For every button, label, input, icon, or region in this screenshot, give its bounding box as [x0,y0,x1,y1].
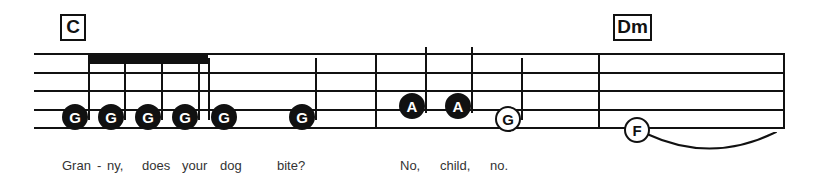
lyric-syllable: your [182,159,207,172]
stem-g-6 [315,58,317,120]
note-g-1[interactable]: G [62,104,88,130]
note-f-1[interactable]: F [624,117,650,143]
chord-symbol-dm[interactable]: Dm [613,14,652,41]
note-g-5[interactable]: G [211,104,237,130]
stem-g-1 [88,58,90,120]
lyric-syllable: does [142,159,170,172]
note-g-7[interactable]: G [495,106,521,132]
stem-g-3 [161,58,163,120]
beam-group-1 [88,55,208,64]
stem-g-2 [124,58,126,120]
lyric-syllable: ny, [107,159,123,172]
lyric-syllable: dog [220,159,242,172]
barline-measure-2 [598,53,600,128]
stem-a-1 [425,47,427,113]
staff-line-2 [34,72,785,74]
lyric-syllable: no. [490,159,508,172]
chord-symbol-c[interactable]: C [60,14,86,41]
stem-a-2 [471,47,473,113]
note-g-6[interactable]: G [289,104,315,130]
barline-measure-1 [375,53,377,128]
note-g-4[interactable]: G [172,104,198,130]
lyric-syllable: Gran [62,159,91,172]
staff-line-3 [34,90,785,92]
music-notation-sheet: CDm GGGGGGAAGF Gran-ny,doesyourdogbite?N… [0,0,819,188]
barline-final [783,53,785,128]
note-a-1[interactable]: A [399,93,425,119]
note-g-2[interactable]: G [98,104,124,130]
note-a-2[interactable]: A [445,93,471,119]
stem-g-4 [198,58,200,120]
lyric-syllable: No, [400,159,420,172]
lyric-syllable: - [97,159,101,172]
slur-tie [645,132,778,156]
lyric-syllable: child, [440,159,470,172]
stem-g-7 [521,58,523,120]
lyric-syllable: bite? [277,159,305,172]
note-g-3[interactable]: G [135,104,161,130]
stem-g-5 [208,58,210,120]
